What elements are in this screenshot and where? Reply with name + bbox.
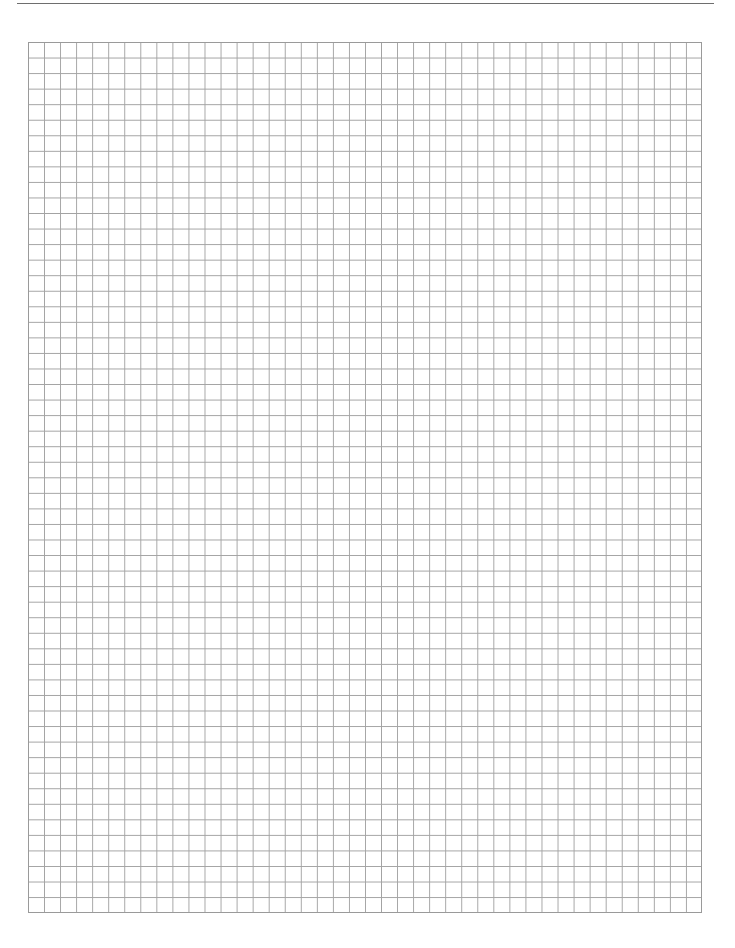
header-rule: [17, 3, 714, 4]
graph-paper-grid: [28, 42, 702, 913]
